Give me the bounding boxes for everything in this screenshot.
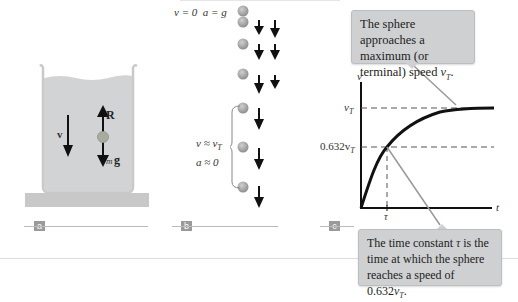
velocity-label: v [57, 128, 63, 140]
time-constant-callout: The time constant τ is the time at which… [358, 229, 502, 286]
panel-b-rule [172, 226, 278, 227]
callout-top-pointer-icon [406, 63, 418, 69]
panel-a-rule [24, 226, 148, 227]
terminal-acceleration-text: a ≈ 0 [196, 155, 222, 170]
falling-spheres-diagram [230, 0, 310, 220]
mid-tick-sub: T [350, 146, 354, 155]
panel-c-rule [320, 226, 354, 227]
callout-bottom-end: . [404, 284, 407, 298]
resistive-force-label: R [106, 108, 115, 123]
x-axis-label: t [496, 201, 499, 213]
terminal-state-label: v ≈ vT a ≈ 0 [196, 136, 222, 170]
beaker-diagram [20, 60, 160, 210]
mid-tick-label: 0.632vT [320, 140, 355, 155]
weight-label-g: g [114, 153, 120, 168]
mid-tick-text: 0.632v [320, 140, 350, 152]
weight-label-m: m [106, 156, 113, 166]
initial-state-label: v = 0 a = g [174, 6, 227, 18]
callout-top-text: The sphere approaches a maximum (or term… [360, 17, 441, 79]
terminal-speed-callout: The sphere approaches a maximum (or term… [351, 10, 475, 64]
velocity-arrow-icon [63, 115, 73, 157]
terminal-velocity-sub: T [217, 143, 221, 152]
tau-tick-label: τ [384, 211, 388, 222]
terminal-velocity-text: v ≈ v [196, 137, 217, 149]
vt-tick-sub: T [349, 107, 353, 116]
callout-bottom-text-1: The time constant [367, 236, 456, 250]
vt-tick-label: vT [344, 101, 353, 116]
callout-top-end: . [451, 65, 454, 79]
